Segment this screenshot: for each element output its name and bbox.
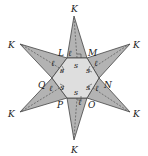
side-label-bottom: s bbox=[74, 88, 78, 97]
vertex-label-Q: Q bbox=[38, 80, 46, 90]
vertex-label-P: P bbox=[56, 100, 64, 110]
side-label-lower-right: s bbox=[86, 83, 90, 92]
apex-label-upper-left: K bbox=[7, 40, 16, 50]
side-label-upper-right: s bbox=[86, 66, 90, 75]
apex-label-lower-left: K bbox=[7, 109, 16, 119]
apex-label-lower-right: K bbox=[132, 109, 141, 119]
side-label-top: s bbox=[74, 61, 78, 70]
star-hexagon-diagram: K K K K K K L M N O P Q s s s s s s ℓ ℓ … bbox=[0, 0, 148, 156]
vertex-label-M: M bbox=[87, 48, 98, 58]
side-label-upper-left: s bbox=[60, 66, 64, 75]
side-label-lower-left: s bbox=[60, 83, 64, 92]
vertex-label-L: L bbox=[57, 48, 64, 58]
vertex-label-N: N bbox=[103, 80, 113, 90]
apex-label-upper-right: K bbox=[132, 40, 141, 50]
apex-label-top: K bbox=[70, 4, 79, 14]
vertex-label-O: O bbox=[88, 100, 96, 110]
apex-label-bottom: K bbox=[70, 145, 79, 155]
triangle-bottom bbox=[67, 98, 87, 140]
